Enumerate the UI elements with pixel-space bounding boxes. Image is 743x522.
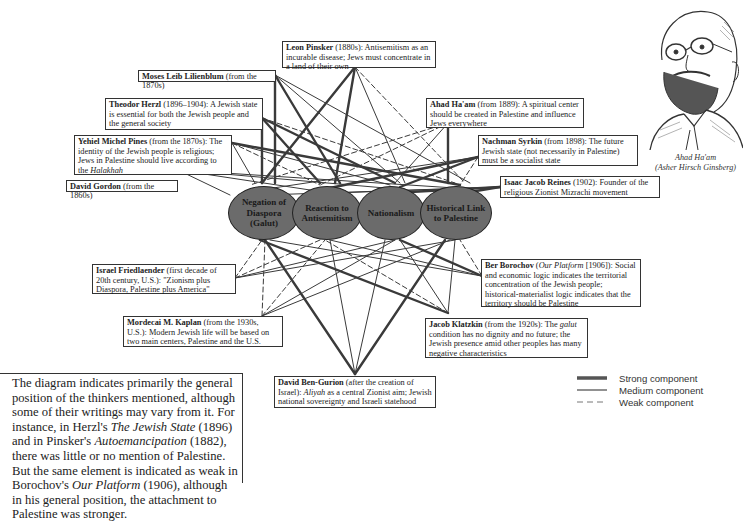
thinker-box-pines: Yehiel Michel Pines (from the 1870s): Th…: [74, 135, 232, 175]
note-title-italic: Autoemancipation: [94, 434, 186, 448]
thinker-box-syrkin: Nachman Syrkin (from 1898): The future J…: [478, 135, 638, 166]
thinker-name: David Ben-Gurion: [278, 378, 344, 387]
portrait-ahad-haam-image: [640, 0, 743, 150]
thinker-name: Leon Pinsker: [286, 43, 333, 52]
note-title-italic: Our Platform: [72, 478, 140, 492]
thinker-description-italic: Aliyah: [304, 388, 326, 397]
legend: Strong component Medium component Weak c…: [577, 372, 703, 408]
thinker-box-borochov: Ber Borochov (Our Platform [1906]): Soci…: [481, 259, 641, 307]
thinker-description-italic: galut: [560, 320, 577, 329]
component-historical-link-to-palestine: Historical Linkto Palestine: [420, 186, 492, 240]
thinker-name: Isaac Jacob Reines: [504, 178, 571, 187]
ellipse-label-line: (Galut): [250, 218, 278, 228]
thinker-box-herzl: Theodor Herzl (1896–1904): A Jewish stat…: [105, 98, 263, 130]
thinker-name: Yehiel Michel Pines: [78, 137, 147, 146]
legend-item-medium: Medium component: [577, 384, 703, 396]
thinker-box-kaplan: Mordecai M. Kaplan (from the 1930s, U.S.…: [123, 316, 283, 347]
thinker-name: Ber Borochov: [485, 261, 534, 270]
component-reaction-to-antisemitism: Reaction toAntisemitism: [292, 186, 362, 240]
strong-line-icon: [577, 375, 607, 381]
thinker-name: Nachman Syrkin: [482, 137, 542, 146]
thinker-box-ahad-haam: Ahad Ha'am (from 1889): A spiritual cent…: [426, 98, 584, 128]
thinker-name: Moses Leib Lilienblum: [142, 72, 224, 81]
thinker-description-italic: Our Platform: [539, 261, 584, 270]
legend-label: Medium component: [619, 385, 703, 396]
thinker-box-reines: Isaac Jacob Reines (1902): Founder of th…: [500, 176, 660, 198]
thinker-description: condition has no dignity and no future; …: [429, 330, 582, 358]
thinker-name: Israel Friedlaender: [96, 266, 164, 275]
legend-item-weak: Weak component: [577, 396, 703, 408]
portrait-caption: Ahad Ha'am (Asher Hirsch Ginsberg): [648, 153, 743, 173]
thinker-name: Jacob Klatzkin: [429, 320, 483, 329]
component-negation-of-diaspora: Negation ofDiaspora(Galut): [228, 186, 300, 240]
explanatory-note: The diagram indicates primarily the gene…: [0, 373, 243, 483]
ellipse-label-line: Reaction to: [305, 203, 349, 213]
note-title-italic: The Jewish State: [111, 420, 196, 434]
thinker-description-italic: Halakhah: [90, 166, 123, 175]
thinker-name: Mordecai M. Kaplan: [127, 318, 201, 327]
dashed-line-icon: [577, 399, 607, 405]
thinker-name: Ahad Ha'am: [430, 100, 475, 109]
thinker-name: David Gordon: [70, 182, 121, 191]
thinker-box-pinsker: Leon Pinsker (1880s): Antisemitism as an…: [282, 41, 436, 68]
caption-birth-name: (Asher Hirsch Ginsberg): [648, 163, 743, 173]
thinker-box-friedlaender: Israel Friedlaender (first decade of 20t…: [92, 264, 236, 294]
caption-name: Ahad Ha'am: [648, 153, 743, 163]
thinker-box-lilienblum: Moses Leib Lilienblum (from the 1870s): [138, 70, 276, 82]
ellipse-label-line: Historical Link: [427, 203, 486, 213]
thinker-description: (from the 1920s): The: [483, 320, 560, 329]
legend-label: Strong component: [619, 373, 697, 384]
legend-item-strong: Strong component: [577, 372, 703, 384]
thinker-box-gordon: David Gordon (from the 1860s): [66, 180, 178, 192]
ellipse-label-line: Diaspora: [246, 208, 281, 218]
thinker-box-klatzkin: Jacob Klatzkin (from the 1920s): The gal…: [425, 318, 588, 358]
thinker-box-ben-gurion: David Ben-Gurion (after the creation of …: [274, 376, 436, 408]
ellipse-label-line: Negation of: [242, 197, 286, 207]
component-nationalism: Nationalism: [357, 186, 425, 240]
medium-line-icon: [577, 387, 607, 393]
legend-label: Weak component: [619, 397, 693, 408]
ellipse-label-line: to Palestine: [434, 213, 478, 223]
ellipse-label-line: Antisemitism: [302, 213, 353, 223]
thinker-name: Theodor Herzl: [109, 100, 161, 109]
ellipse-label-line: Nationalism: [368, 208, 415, 218]
